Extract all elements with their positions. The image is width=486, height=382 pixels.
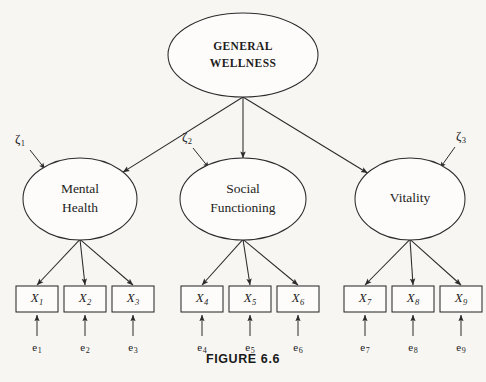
path-vitality-to-x9 xyxy=(410,239,461,285)
label-zeta-3: ζ3 xyxy=(456,128,466,144)
label-vitality: Vitality xyxy=(390,190,431,205)
label-social-functioning-line2: Functioning xyxy=(210,200,276,215)
arrow-zeta3-to-vitality xyxy=(440,147,455,168)
label-zeta-1: ζ1 xyxy=(15,131,25,147)
path-social-functioning-to-x6 xyxy=(243,239,298,285)
label-social-functioning-line1: Social xyxy=(226,181,260,196)
path-social-functioning-to-x4 xyxy=(202,239,243,285)
diagram-canvas: GENERALWELLNESSMentalHealthζ1SocialFunct… xyxy=(0,0,486,382)
label-general-wellness-line2: WELLNESS xyxy=(210,57,276,69)
path-mental-health-to-x2 xyxy=(80,239,85,285)
measurement-paths-group xyxy=(37,239,461,285)
ellipse-social-functioning xyxy=(180,158,306,240)
arrow-zeta1-to-mental-health xyxy=(30,150,45,169)
label-mental-health-line1: Mental xyxy=(61,181,99,196)
sem-path-diagram: GENERALWELLNESSMentalHealthζ1SocialFunct… xyxy=(0,0,486,382)
ellipse-general-wellness xyxy=(168,13,318,97)
path-mental-health-to-x1 xyxy=(37,239,80,285)
path-social-functioning-to-x5 xyxy=(243,239,250,285)
error-paths-group xyxy=(37,315,461,336)
path-mental-health-to-x3 xyxy=(80,239,133,285)
label-general-wellness-line1: GENERAL xyxy=(213,40,273,52)
ellipse-mental-health xyxy=(23,158,137,240)
path-vitality-to-x7 xyxy=(365,239,410,285)
figure-caption: FIGURE 6.6 xyxy=(0,352,486,366)
path-vitality-to-x8 xyxy=(410,239,413,285)
label-zeta-2: ζ2 xyxy=(182,129,192,145)
label-mental-health-line2: Health xyxy=(62,200,98,215)
